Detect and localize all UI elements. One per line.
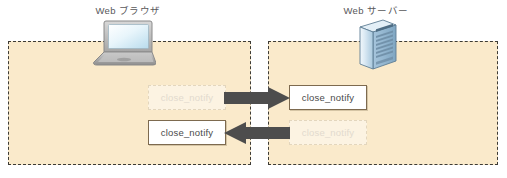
server-close-notify-sent-box: close_notify: [289, 120, 367, 145]
server-close-notify-received-box: close_notify: [289, 85, 367, 110]
arrow-left-icon: [224, 122, 290, 144]
message-label: close_notify: [161, 127, 214, 138]
arrow-right-icon: [224, 87, 290, 109]
message-label: close_notify: [161, 92, 214, 103]
web-browser-label: Web ブラウザ: [48, 3, 208, 17]
web-server-label: Web サーバー: [296, 3, 456, 17]
server-tower-icon: [352, 18, 400, 72]
message-label: close_notify: [302, 92, 355, 103]
client-close-notify-received-box: close_notify: [148, 120, 226, 145]
laptop-icon: [88, 19, 156, 67]
message-label: close_notify: [302, 127, 355, 138]
tls-close-notify-diagram: Web ブラウザ Web サーバー: [0, 0, 507, 178]
client-close-notify-sent-box: close_notify: [148, 85, 226, 110]
